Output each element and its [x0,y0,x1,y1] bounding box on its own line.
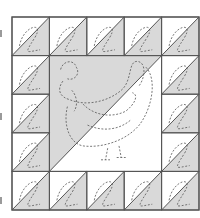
quilt-diagram [0,0,200,218]
edge-mark [0,197,2,204]
edge-mark [0,113,2,120]
edge-mark [0,30,2,37]
